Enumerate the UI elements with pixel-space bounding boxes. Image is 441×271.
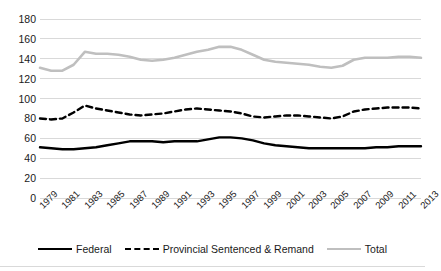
x-axis-tick-label: 1993 xyxy=(194,188,217,211)
x-axis-tick-label: 1999 xyxy=(261,188,284,211)
x-axis-tick-label: 1983 xyxy=(82,188,105,211)
x-axis-tick-label: 2013 xyxy=(418,188,441,211)
x-axis-tick-label: 2011 xyxy=(396,189,418,211)
legend-swatch-dashed-black-line xyxy=(125,248,159,250)
legend-label: Provincial Sentenced & Remand xyxy=(163,243,314,255)
x-axis-tick-label: 1989 xyxy=(149,188,172,211)
bottom-divider xyxy=(0,266,425,267)
x-axis-tick-label: 1995 xyxy=(216,188,239,211)
x-axis-tick-label: 1985 xyxy=(104,188,127,211)
x-axis-tick-label: 2007 xyxy=(351,188,374,211)
legend-item[interactable]: Provincial Sentenced & Remand xyxy=(125,243,314,255)
legend-item[interactable]: Total xyxy=(327,243,387,255)
chart-legend: FederalProvincial Sentenced & RemandTota… xyxy=(0,243,425,255)
legend-label: Total xyxy=(365,243,387,255)
x-axis-tick-label: 2003 xyxy=(306,188,329,211)
x-axis-tick-label: 1987 xyxy=(127,188,150,211)
x-axis-tick-label: 2009 xyxy=(373,188,396,211)
x-axis-tick-label: 2001 xyxy=(284,188,307,211)
x-axis-tick-label: 1979 xyxy=(37,188,60,211)
x-axis-tick-label: 1997 xyxy=(239,188,262,211)
legend-item[interactable]: Federal xyxy=(38,243,112,255)
legend-swatch-solid-black-line xyxy=(38,248,72,250)
x-axis-tick-label: 2005 xyxy=(328,188,351,211)
legend-swatch-solid-gray-line xyxy=(327,248,361,250)
x-axis-tick-label: 1991 xyxy=(171,188,194,211)
legend-label: Federal xyxy=(76,243,112,255)
x-axis-tick-label: 1981 xyxy=(59,188,82,211)
